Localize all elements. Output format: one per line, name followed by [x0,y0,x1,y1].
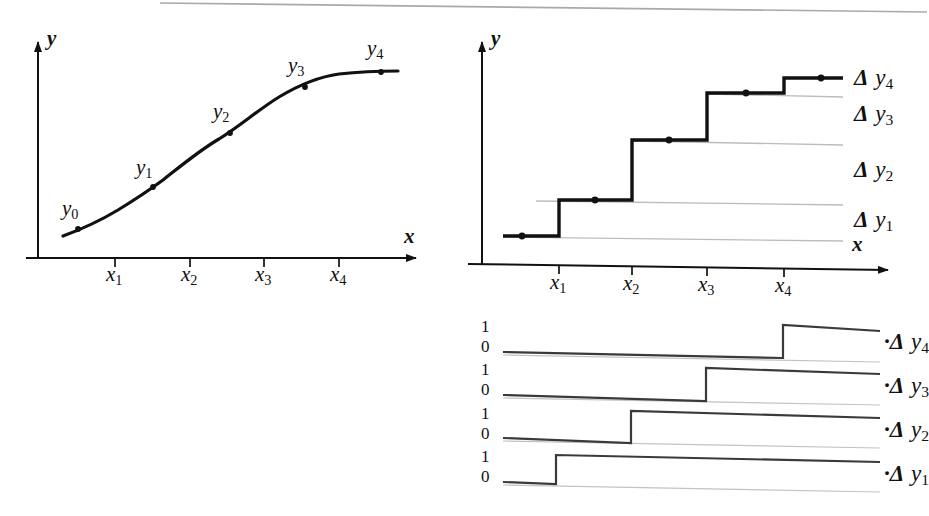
p3-level-zero-dy1: 0 [481,468,490,485]
p3-level-zero-dy2: 0 [481,425,490,442]
p1-tick-label-x3: x3 [255,264,271,287]
panel-indicator-traces [503,325,880,492]
p3-level-one-dy2: 1 [481,405,490,422]
p1-curve [63,71,398,236]
p2-x-axis-label: x [852,234,863,255]
p2-increment-label-dy2: Δ y2 [854,158,893,184]
p2-x-axis [468,264,888,270]
p3-trace-dy1 [503,455,880,484]
p3-level-one-dy1: 1 [481,448,490,465]
p2-increment-label-dy1: Δ y1 [854,208,893,234]
p3-trace-dy2 [503,411,880,443]
p2-increment-label-dy4: Δ y4 [854,66,893,92]
p1-point-label-y0: y0 [62,198,78,221]
p1-point-label-y4: y4 [367,38,383,61]
p3-level-one-dy3: 1 [481,361,490,378]
top-rule [160,3,927,12]
p1-tick-label-x1: x1 [106,264,122,287]
p2-increment-label-dy3: Δ y3 [854,102,893,128]
p3-trace-label-dy3: ·Δ y3 [884,374,929,400]
p2-tick-label-x1: x1 [550,272,566,295]
panel-continuous-curve [26,42,416,267]
p3-guide-lines [503,355,880,492]
p2-y-axis-label: y [491,28,500,49]
p1-tick-label-x4: x4 [330,264,346,287]
p3-trace-label-dy2: ·Δ y2 [884,418,929,444]
p1-point-label-y3: y3 [288,55,304,78]
p3-level-zero-dy3: 0 [481,381,490,398]
p2-tick-label-x2: x2 [623,273,639,296]
p1-point-label-y1: y1 [136,157,152,180]
p2-sample-points [519,75,825,240]
p3-trace-label-dy1: ·Δ y1 [884,462,929,488]
p3-level-one-dy4: 1 [481,318,490,335]
p1-y-axis-label: y [47,28,56,49]
p3-trace-dy3 [503,368,880,401]
p2-tick-label-x3: x3 [698,274,714,297]
p3-trace-label-dy4: ·Δ y4 [884,330,929,356]
p1-point-label-y2: y2 [213,101,229,124]
panel-staircase [468,42,888,277]
p1-x-axis-label: x [404,226,415,247]
p3-level-zero-dy4: 0 [481,338,490,355]
p1-x-ticks [115,258,339,267]
p1-tick-label-x2: x2 [181,264,197,287]
p2-guide-lines [503,94,843,241]
p2-staircase-path [503,78,843,236]
p3-trace-dy4 [503,325,880,358]
p2-tick-label-x4: x4 [775,275,791,298]
